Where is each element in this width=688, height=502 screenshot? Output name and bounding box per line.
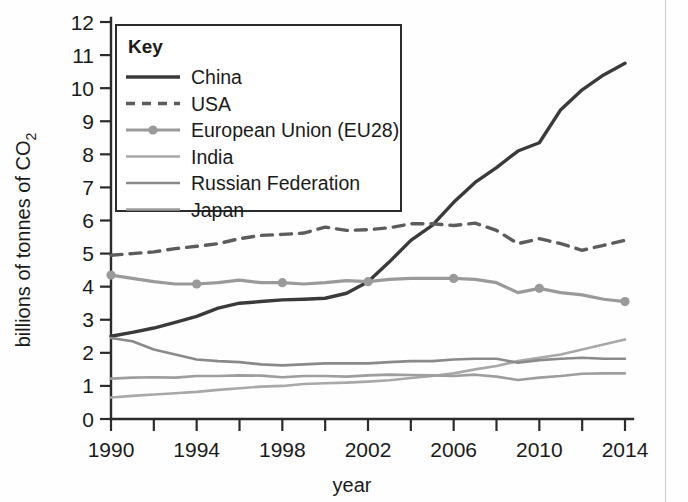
legend-label-china: China [191, 66, 242, 88]
chart-figure: 0123456789101112 19901994199820022006201… [0, 0, 688, 502]
x-tick-label: 1990 [88, 438, 135, 461]
series-line-russian-federation [111, 338, 625, 365]
legend-swatch-marker [148, 125, 157, 134]
y-axis-tick-group [100, 22, 111, 419]
series-marker [535, 284, 544, 293]
x-axis-tick-labels: 1990199419982002200620102014 [88, 438, 649, 461]
x-axis-title: year [333, 474, 372, 496]
series-marker [192, 279, 201, 288]
x-tick-label: 1998 [259, 438, 306, 461]
series-marker [278, 278, 287, 287]
series-marker [106, 270, 115, 279]
y-tick-label: 9 [82, 110, 94, 133]
y-tick-label: 5 [82, 242, 94, 265]
x-tick-label: 2006 [430, 438, 477, 461]
y-tick-label: 4 [82, 275, 94, 298]
series-marker [363, 277, 372, 286]
legend-label-usa: USA [191, 93, 231, 115]
y-axis-title: billions of tonnes of CO2 [12, 133, 39, 348]
legend-label-russian-federation: Russian Federation [191, 172, 360, 194]
y-tick-label: 0 [82, 408, 94, 431]
y-tick-label: 1 [82, 374, 94, 397]
y-tick-label: 2 [82, 341, 94, 364]
legend-title: Key [128, 36, 163, 57]
x-tick-label: 2014 [602, 438, 649, 461]
y-tick-label: 6 [82, 209, 94, 232]
legend-label-european-union-eu28: European Union (EU28) [191, 119, 399, 141]
legend-label-japan: Japan [191, 199, 244, 221]
y-tick-label: 10 [71, 77, 94, 100]
x-tick-label: 1994 [173, 438, 220, 461]
series-line-japan [111, 373, 625, 380]
page-edge-rule [665, 0, 666, 502]
y-tick-label: 7 [82, 176, 94, 199]
y-tick-label: 12 [71, 11, 94, 34]
x-axis-tick-group [111, 419, 625, 431]
y-tick-label: 11 [72, 44, 94, 67]
series-line-usa [111, 223, 625, 255]
series-line-india [111, 340, 625, 398]
chart-legend: Key ChinaUSAEuropean Union (EU28)IndiaRu… [116, 25, 401, 221]
y-tick-label: 8 [82, 143, 94, 166]
y-tick-label: 3 [82, 308, 94, 331]
series-marker [449, 274, 458, 283]
co2-emissions-line-chart: 0123456789101112 19901994199820022006201… [0, 0, 688, 502]
legend-label-india: India [191, 146, 233, 168]
x-tick-label: 2002 [345, 438, 392, 461]
x-tick-label: 2010 [516, 438, 563, 461]
y-axis-tick-labels: 0123456789101112 [71, 11, 95, 431]
series-marker [620, 297, 629, 306]
